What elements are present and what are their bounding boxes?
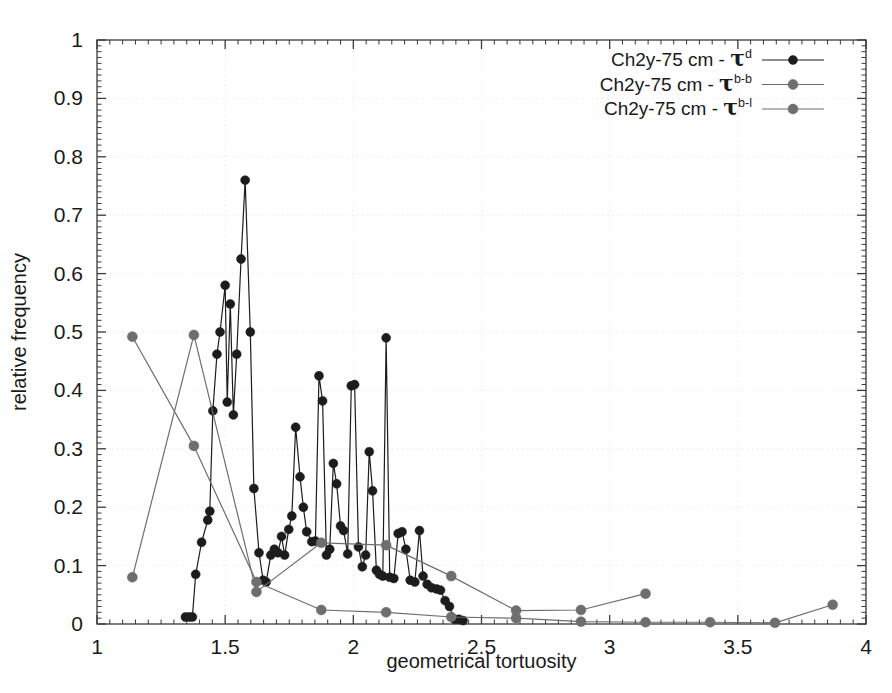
data-point [299, 503, 308, 512]
chart-legend: Ch2y-75 cm - τdCh2y-75 cm - τb-bCh2y-75 … [600, 45, 824, 120]
y-tick-label: 0.7 [54, 203, 83, 226]
data-point [284, 525, 293, 534]
data-point [287, 511, 296, 520]
data-point [223, 398, 232, 407]
data-point [241, 176, 250, 185]
data-point [446, 571, 456, 581]
data-point [770, 618, 780, 628]
data-point [197, 538, 206, 547]
y-tick-label: 0.1 [54, 554, 83, 577]
y-tick-label: 0.9 [54, 86, 83, 109]
data-point [316, 605, 326, 615]
data-point [280, 551, 289, 560]
data-point [358, 562, 367, 571]
data-point [332, 479, 341, 488]
data-point [641, 617, 651, 627]
data-point [576, 605, 586, 615]
y-tick-label: 0.4 [54, 378, 84, 401]
data-point [277, 532, 286, 541]
data-point [318, 396, 327, 405]
data-point [205, 507, 214, 516]
legend-label-2: Ch2y-75 cm - τb-b [600, 70, 752, 96]
y-tick-label: 0.6 [54, 262, 83, 285]
data-point [828, 600, 838, 610]
data-point [389, 574, 398, 583]
data-point [314, 371, 323, 380]
data-point [343, 549, 352, 558]
x-tick-label: 3 [604, 635, 616, 658]
data-point [232, 350, 241, 359]
data-point [203, 516, 212, 525]
legend-label-3: Ch2y-75 cm - τb-l [604, 94, 752, 120]
data-point [436, 586, 445, 595]
data-point [291, 423, 300, 432]
data-point [329, 459, 338, 468]
data-point [446, 612, 456, 622]
x-tick-label: 1.5 [211, 635, 240, 658]
data-point [212, 350, 221, 359]
x-tick-label: 1 [91, 635, 103, 658]
x-tick-label: 2 [347, 635, 359, 658]
data-point [296, 472, 305, 481]
data-point [316, 538, 326, 548]
data-point [445, 602, 454, 611]
data-point [246, 328, 255, 337]
data-point [339, 526, 348, 535]
data-point [251, 587, 261, 597]
legend-marker-2 [788, 80, 798, 90]
chart-figure: 00.10.20.30.40.50.60.70.80.9111.522.533.… [0, 0, 892, 693]
y-axis-title: relative frequency [8, 253, 30, 411]
data-point [255, 548, 264, 557]
data-point [302, 527, 311, 536]
data-point [382, 333, 391, 342]
data-point [350, 380, 359, 389]
data-point [361, 551, 370, 560]
data-point [368, 486, 377, 495]
data-point [511, 606, 521, 616]
data-point [229, 410, 238, 419]
data-point [216, 328, 225, 337]
x-tick-label: 4 [860, 635, 872, 658]
data-point [410, 577, 419, 586]
data-point [226, 299, 235, 308]
data-point [576, 617, 586, 627]
y-tick-label: 0.5 [54, 320, 83, 343]
legend-label-1: Ch2y-75 cm - τd [611, 45, 752, 71]
data-point [415, 526, 424, 535]
y-tick-label: 1 [71, 28, 83, 51]
data-point [189, 441, 199, 451]
y-tick-label: 0 [71, 612, 83, 635]
x-axis-title: geometrical tortuosity [386, 650, 576, 672]
data-point [705, 617, 715, 627]
data-point [127, 332, 137, 342]
data-point [381, 540, 391, 550]
data-point [419, 572, 428, 581]
legend-marker-1 [789, 56, 798, 65]
legend-marker-3 [788, 104, 798, 114]
tortuosity-frequency-chart: 00.10.20.30.40.50.60.70.80.9111.522.533.… [0, 0, 892, 693]
data-point [365, 447, 374, 456]
data-point [325, 545, 334, 554]
data-point [127, 572, 137, 582]
y-tick-label: 0.3 [54, 437, 83, 460]
data-point [249, 484, 258, 493]
data-point [221, 281, 230, 290]
y-tick-label: 0.8 [54, 145, 83, 168]
data-point [237, 255, 246, 264]
data-point [381, 607, 391, 617]
x-tick-label: 3.5 [723, 635, 752, 658]
data-point [641, 589, 651, 599]
data-point [191, 570, 200, 579]
chart-background [0, 0, 892, 693]
data-point [398, 527, 407, 536]
data-point [188, 612, 197, 621]
data-point [189, 330, 199, 340]
y-tick-label: 0.2 [54, 495, 83, 518]
